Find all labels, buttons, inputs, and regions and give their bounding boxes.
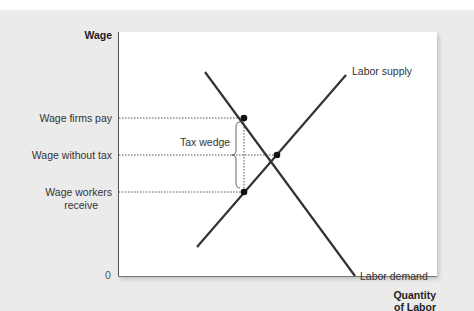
point-equilibrium	[274, 152, 281, 159]
point-workers-receive	[241, 189, 248, 196]
point-firms-pay	[241, 115, 248, 122]
origin-label: 0	[105, 269, 111, 282]
y-axis-label: Wage	[84, 29, 112, 42]
label-wage-without-tax: Wage without tax	[32, 149, 112, 162]
labor-supply-label: Labor supply	[352, 65, 412, 78]
labor-demand-label: Labor demand	[360, 270, 428, 283]
label-wage-workers-receive-1: Wage workers	[45, 186, 112, 199]
x-axis-label-2: of Labor	[394, 301, 436, 311]
labor-supply-curve	[197, 75, 346, 247]
labor-demand-curve	[205, 72, 355, 276]
label-wage-firms-pay: Wage firms pay	[39, 112, 112, 125]
label-wage-workers-receive-2: receive	[64, 199, 98, 212]
tax-wedge-label: Tax wedge	[180, 136, 230, 149]
